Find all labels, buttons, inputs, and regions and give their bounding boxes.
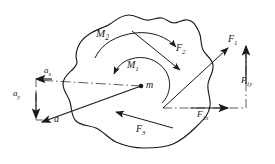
force-1x-label: F1x <box>197 110 208 121</box>
force-1y-label: F1y <box>241 76 252 87</box>
force-3-label: F3 <box>136 124 146 137</box>
moment-1-label: M1 <box>127 60 139 73</box>
diagram-vector-layer <box>0 0 275 164</box>
force-2-label: F2 <box>176 43 186 56</box>
accel-y-label: ay <box>13 89 20 100</box>
moment-2-label: M2 <box>96 28 109 42</box>
force-1-label: F1 <box>228 34 238 47</box>
acceleration-label: a <box>54 114 59 127</box>
mass-center-label: m <box>146 80 153 93</box>
figure-canvas: M2 M1 F2 F1 F3 F1x F1y ax ay a m <box>0 0 275 164</box>
accel-x-label: ax <box>44 66 51 77</box>
